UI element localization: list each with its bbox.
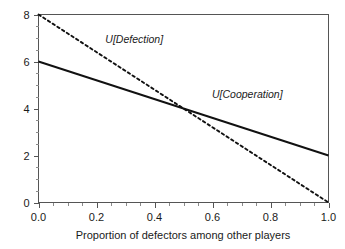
y-tick-label: 4 <box>23 103 29 115</box>
x-tick-label: 0.8 <box>263 211 278 223</box>
x-tick-label: 1.0 <box>321 211 336 223</box>
x-tick-label: 0.6 <box>205 211 220 223</box>
x-axis-title: Proportion of defectors among other play… <box>76 229 291 241</box>
series-annotation-u-cooperation: U[Cooperation] <box>212 88 284 100</box>
x-tick-label: 0.2 <box>89 211 104 223</box>
x-tick-label: 0.0 <box>31 211 46 223</box>
y-tick-label: 0 <box>23 197 29 209</box>
series-annotation-u-defection: U[Defection] <box>105 33 164 45</box>
chart-container: 02468 0.00.20.40.60.81.0 U[Defection]U[C… <box>0 0 345 249</box>
x-tick-label: 0.4 <box>147 211 162 223</box>
chart-background <box>0 0 345 249</box>
y-tick-label: 2 <box>23 150 29 162</box>
utility-line-chart: 02468 0.00.20.40.60.81.0 U[Defection]U[C… <box>0 0 345 249</box>
y-tick-label: 8 <box>23 9 29 21</box>
y-tick-label: 6 <box>23 56 29 68</box>
